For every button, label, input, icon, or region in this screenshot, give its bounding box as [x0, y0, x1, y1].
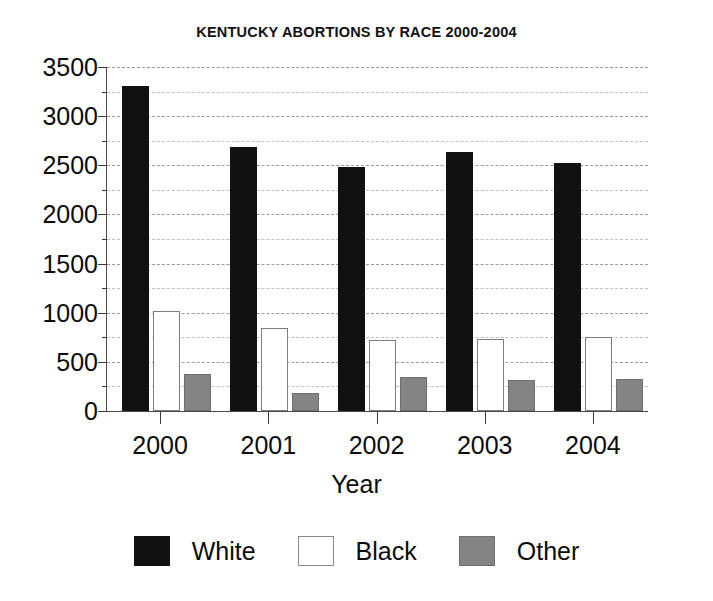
- bar-white-2000: [122, 86, 149, 411]
- y-axis-tick-label: 1500: [12, 251, 98, 276]
- y-axis-tick-minor: [102, 288, 107, 289]
- x-axis-ticks: [106, 412, 647, 426]
- x-axis-tick: [377, 412, 378, 424]
- y-axis-tick-minor: [102, 141, 107, 142]
- gridline-minor: [107, 141, 648, 142]
- x-axis-title: Year: [0, 470, 713, 499]
- gridline-major: [107, 67, 648, 68]
- x-axis-tick: [593, 412, 594, 424]
- x-axis-tick-label: 2001: [213, 432, 323, 460]
- y-axis-tick-label: 2500: [12, 153, 98, 178]
- x-axis-tick: [268, 412, 269, 424]
- y-axis-tick: [98, 313, 107, 314]
- chart-title: KENTUCKY ABORTIONS BY RACE 2000-2004: [0, 24, 713, 40]
- legend-label: Other: [517, 537, 580, 566]
- y-axis-tick-label: 1000: [12, 300, 98, 325]
- plot-area: [106, 67, 648, 412]
- y-axis-tick: [98, 214, 107, 215]
- gridline-minor: [107, 92, 648, 93]
- legend-swatch-icon: [459, 536, 495, 566]
- bar-black-2002: [369, 340, 396, 411]
- y-axis-tick-minor: [102, 239, 107, 240]
- x-axis-tick-label: 2004: [538, 432, 648, 460]
- legend-swatch-icon: [298, 536, 334, 566]
- legend-swatch-icon: [134, 536, 170, 566]
- y-axis-tick-label: 3000: [12, 104, 98, 129]
- y-axis-tick: [98, 67, 107, 68]
- legend-item-black[interactable]: Black: [298, 536, 417, 566]
- bar-white-2002: [338, 167, 365, 411]
- bar-white-2004: [554, 163, 581, 411]
- bar-other-2000: [184, 374, 211, 411]
- x-axis-labels: 20002001200220032004: [106, 432, 647, 466]
- y-axis-tick-label: 500: [12, 349, 98, 374]
- y-axis-tick-minor: [102, 92, 107, 93]
- y-axis-tick: [98, 116, 107, 117]
- x-axis-tick-label: 2002: [322, 432, 432, 460]
- x-axis-tick: [160, 412, 161, 424]
- bar-chart: KENTUCKY ABORTIONS BY RACE 2000-2004 050…: [0, 0, 713, 601]
- x-axis-tick: [485, 412, 486, 424]
- bar-white-2003: [446, 152, 473, 411]
- y-axis-tick: [98, 165, 107, 166]
- y-axis-tick-minor: [102, 337, 107, 338]
- bar-black-2001: [261, 328, 288, 411]
- y-axis-tick: [98, 362, 107, 363]
- legend-label: Black: [356, 537, 417, 566]
- y-axis-tick: [98, 264, 107, 265]
- bar-other-2003: [508, 380, 535, 411]
- bar-black-2004: [585, 337, 612, 411]
- y-axis-tick-label: 3500: [12, 55, 98, 80]
- legend-label: White: [192, 537, 256, 566]
- bar-other-2004: [616, 379, 643, 411]
- y-axis-tick-minor: [102, 386, 107, 387]
- legend-item-other[interactable]: Other: [459, 536, 580, 566]
- y-axis-tick-label: 2000: [12, 202, 98, 227]
- gridline-major: [107, 116, 648, 117]
- legend-item-white[interactable]: White: [134, 536, 256, 566]
- bar-other-2001: [292, 393, 319, 411]
- y-axis-tick-minor: [102, 190, 107, 191]
- bar-black-2000: [153, 311, 180, 411]
- y-axis-labels: 0500100015002000250030003500: [8, 67, 98, 411]
- x-axis-tick-label: 2003: [430, 432, 540, 460]
- bar-black-2003: [477, 339, 504, 411]
- x-axis-tick-label: 2000: [105, 432, 215, 460]
- bar-other-2002: [400, 377, 427, 411]
- bar-white-2001: [230, 147, 257, 411]
- y-axis-tick-label: 0: [12, 399, 98, 424]
- chart-legend: WhiteBlackOther: [0, 536, 713, 566]
